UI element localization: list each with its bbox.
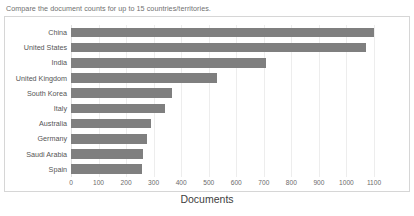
bar-row (71, 86, 374, 101)
category-label: South Korea (27, 86, 67, 101)
bar[interactable] (71, 149, 143, 159)
bar-row (71, 116, 374, 131)
x-tick-label: 700 (258, 179, 269, 186)
x-axis-title: Documents (0, 193, 414, 205)
bar[interactable] (71, 58, 266, 68)
bar[interactable] (71, 104, 165, 114)
bar[interactable] (71, 73, 217, 83)
x-tick-label: 400 (176, 179, 187, 186)
bar[interactable] (71, 134, 147, 144)
bar-row (71, 25, 374, 40)
chart-frame: ChinaUnited StatesIndiaUnited KingdomSou… (4, 16, 410, 192)
category-label: United States (24, 40, 67, 55)
bar-row (71, 101, 374, 116)
bar[interactable] (71, 43, 366, 53)
x-tick-label: 600 (231, 179, 242, 186)
x-tick-label: 800 (286, 179, 297, 186)
category-label: Germany (37, 131, 67, 146)
category-label: Australia (39, 116, 67, 131)
category-label: United Kingdom (16, 71, 67, 86)
bar-row (71, 162, 374, 177)
bar[interactable] (71, 164, 142, 174)
bar-row (71, 40, 374, 55)
chart-page: Compare the document counts for up to 15… (0, 0, 414, 216)
bar[interactable] (71, 28, 374, 38)
chart-caption: Compare the document counts for up to 15… (6, 4, 211, 13)
x-tick-label: 300 (148, 179, 159, 186)
plot-area (71, 25, 374, 177)
bar[interactable] (71, 88, 172, 98)
category-label: Spain (49, 162, 67, 177)
bar-row (71, 55, 374, 70)
gridline (374, 25, 375, 177)
category-axis: ChinaUnited StatesIndiaUnited KingdomSou… (5, 25, 67, 177)
category-label: India (51, 55, 67, 70)
x-axis-ticks: 010020030040050060070080090010001100 (71, 179, 374, 191)
bar-rows (71, 25, 374, 177)
bar-row (71, 71, 374, 86)
x-tick-label: 200 (121, 179, 132, 186)
bar-row (71, 131, 374, 146)
x-tick-label: 100 (93, 179, 104, 186)
bar[interactable] (71, 119, 151, 129)
x-tick-label: 900 (313, 179, 324, 186)
x-tick-label: 500 (203, 179, 214, 186)
category-label: Saudi Arabia (26, 147, 67, 162)
category-label: China (48, 25, 67, 40)
bar-row (71, 147, 374, 162)
x-tick-label: 1100 (367, 179, 381, 186)
category-label: Italy (54, 101, 67, 116)
x-tick-label: 1000 (339, 179, 354, 186)
x-tick-label: 0 (69, 179, 73, 186)
